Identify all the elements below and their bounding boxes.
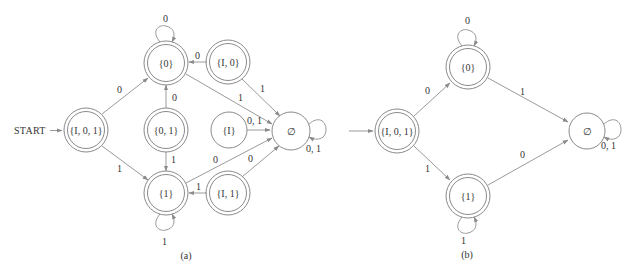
- state-1: {1}: [446, 174, 490, 218]
- edge-label: 0: [248, 153, 253, 164]
- caption-b: (b): [461, 249, 473, 261]
- state-label: {I}: [223, 125, 236, 136]
- state-01: {0, 1}: [144, 108, 188, 152]
- loop-1: [458, 217, 476, 233]
- state-I01: {I, 0, 1}: [375, 109, 419, 153]
- edge-label: 1: [520, 86, 525, 97]
- state-label: ∅: [583, 126, 592, 137]
- edge-label: 0, 1: [306, 143, 321, 154]
- state-label: {I, 1}: [217, 188, 240, 199]
- loop-empty: [309, 120, 326, 139]
- edge-I01-to-1: [414, 146, 450, 180]
- state-0: {0}: [446, 45, 490, 89]
- edge-label: 0: [465, 15, 470, 26]
- loop-empty: [604, 120, 621, 139]
- edge-label: 0: [195, 50, 200, 61]
- edge-1-to-empty: [186, 138, 272, 183]
- diagram-b: 0 1 0 1 1 0 0, 1 {I, 0, 1} {0} {1}: [349, 15, 621, 261]
- edge-I01-to-0: [102, 78, 148, 114]
- loop-0: [156, 26, 174, 42]
- edge-1-to-empty: [488, 140, 568, 185]
- edge-label: 0, 1: [247, 115, 262, 126]
- edge-label: 1: [196, 181, 201, 192]
- state-label: {I, 0}: [217, 57, 240, 68]
- edge-label: 0: [163, 13, 168, 24]
- state-label: {I, 0, 1}: [70, 125, 103, 136]
- state-label: {0}: [159, 58, 174, 69]
- edge-I01-to-0: [414, 83, 450, 116]
- start-label: START: [14, 125, 46, 136]
- edge-I01-to-1: [102, 146, 148, 180]
- edge-label: 0: [520, 149, 525, 160]
- state-label: {I, 0, 1}: [381, 126, 414, 137]
- edge-label: 0: [425, 85, 430, 96]
- edge-label: 1: [425, 163, 430, 174]
- state-label: {1}: [159, 188, 174, 199]
- edge-label: 0: [213, 154, 218, 165]
- state-empty: ∅: [272, 112, 310, 150]
- edge-0-to-empty: [488, 78, 568, 122]
- state-label: {0}: [461, 62, 476, 73]
- edge-label: 1: [461, 235, 466, 246]
- edge-label: 1: [260, 83, 265, 94]
- loop-1: [156, 214, 174, 230]
- edge-label: 1: [117, 163, 122, 174]
- state-label: {1}: [461, 191, 476, 202]
- edge-label: 0, 1: [601, 140, 616, 151]
- state-0: {0}: [144, 41, 188, 85]
- edge-label: 0: [172, 92, 177, 103]
- caption-a: (a): [180, 250, 191, 262]
- state-I0: {I, 0}: [206, 40, 250, 84]
- dfa-diagrams: START 0 1 0 1 0 1 1 0 1 0, 1 0 1 0 0, 1: [0, 0, 631, 275]
- diagram-a: START 0 1 0 1 0 1 1 0 1 0, 1 0 1 0 0, 1: [14, 13, 326, 262]
- edge-label: 1: [238, 92, 243, 103]
- state-empty: ∅: [569, 113, 605, 149]
- edge-label: 1: [171, 154, 176, 165]
- state-I1: {I, 1}: [206, 171, 250, 215]
- edge-label: 1: [162, 236, 167, 247]
- loop-0: [458, 30, 476, 46]
- state-1: {1}: [144, 171, 188, 215]
- state-label: {0, 1}: [154, 125, 179, 136]
- state-label: ∅: [287, 126, 296, 137]
- edge-label: 0: [117, 84, 122, 95]
- state-I: {I}: [211, 112, 247, 148]
- state-I01: {I, 0, 1}: [64, 108, 108, 152]
